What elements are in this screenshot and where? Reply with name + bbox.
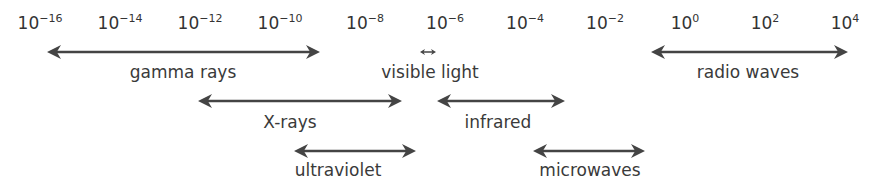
tick-label: 100	[671, 12, 700, 33]
band-label-gamma-rays: gamma rays	[130, 62, 236, 82]
tick-label: 10−8	[346, 12, 384, 33]
tick-label: 10−14	[98, 12, 143, 33]
band-label-ultraviolet: ultraviolet	[295, 160, 382, 180]
band-label-microwaves: microwaves	[539, 160, 640, 180]
tick-label: 104	[831, 12, 860, 33]
tick-label: 102	[751, 12, 780, 33]
double-arrow-icon	[198, 94, 402, 108]
tick-label: 10−4	[506, 12, 544, 33]
tick-label: 10−2	[586, 12, 624, 33]
band-label-radio-waves: radio waves	[697, 62, 799, 82]
band-label-x-rays: X-rays	[263, 112, 316, 132]
double-arrow-icon	[420, 49, 436, 55]
tick-label: 10−10	[258, 12, 303, 33]
band-label-infrared: infrared	[465, 112, 532, 132]
double-arrow-icon	[437, 94, 565, 108]
double-arrow-icon	[47, 45, 320, 59]
tick-label: 10−12	[178, 12, 223, 33]
band-label-visible-light: visible light	[381, 62, 478, 82]
double-arrow-icon	[533, 144, 645, 158]
em-spectrum-diagram: 10−1610−1410−1210−1010−810−610−410−21001…	[0, 0, 882, 191]
tick-label: 10−6	[426, 12, 464, 33]
double-arrow-icon	[294, 144, 416, 158]
tick-label: 10−16	[18, 12, 63, 33]
double-arrow-icon	[651, 45, 848, 59]
